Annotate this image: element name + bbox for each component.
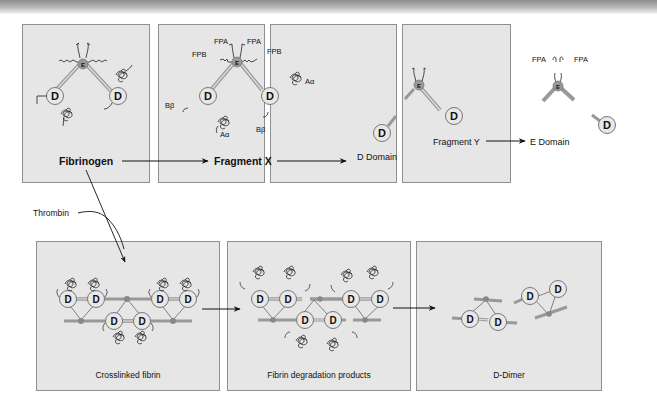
fragment-x-label: Fragment X	[214, 155, 272, 167]
d-domain-letter: D	[450, 110, 458, 122]
d-dimer-left: D D	[452, 296, 517, 330]
crosslinked-fibrin-network: D D D D D D	[57, 278, 199, 344]
e-domain-letter: E	[235, 60, 239, 66]
d-domain-letter: D	[554, 284, 561, 295]
fpb-label-left: FPB	[192, 50, 207, 59]
fpa-label-right: FPA	[574, 55, 588, 64]
d-domain-label: D Domain	[357, 152, 397, 162]
fibrinogen-label: Fibrinogen	[59, 155, 113, 167]
d-dimer-right: D D	[514, 281, 567, 319]
e-domain-letter: E	[556, 84, 560, 90]
d-domain-letter: D	[603, 119, 611, 131]
a-alpha-label-bottom: Aα	[220, 130, 230, 139]
d-domain-letter: D	[378, 127, 386, 139]
d-domain-letter: D	[466, 314, 473, 325]
d-domain-letter: D	[92, 294, 99, 305]
d-domain-letter: D	[347, 294, 354, 305]
fpa-label-left: FPA	[214, 37, 228, 46]
fragment-y-molecule: E D	[405, 68, 463, 125]
a-alpha-label-right: Aα	[305, 77, 315, 86]
fdp-label: Fibrin degradation products	[267, 370, 370, 380]
d-domain-letter: D	[114, 90, 122, 102]
d-domain-letter: D	[138, 316, 145, 327]
d-domain-letter: D	[301, 315, 308, 326]
d-domain-letter: D	[156, 294, 163, 305]
d-domain-letter: D	[284, 294, 291, 305]
d-domain-molecule: D	[374, 116, 397, 142]
fibrinogen-molecule: E D D	[37, 43, 132, 126]
d-domain-letter: D	[51, 90, 59, 102]
d-domain-letter: D	[329, 315, 336, 326]
e-domain-molecule: E D	[543, 57, 616, 134]
arrow-fibrinogen-to-crosslinked	[86, 170, 125, 262]
d-domain-letter: D	[184, 294, 191, 305]
d-domain-letter: D	[64, 294, 71, 305]
e-domain-label: E Domain	[530, 137, 570, 147]
fdp-fragments: D D D D D D	[240, 266, 393, 351]
crosslinked-fibrin-label: Crosslinked fibrin	[95, 370, 160, 380]
fragment-y-label: Fragment Y	[433, 137, 480, 147]
d-domain-letter: D	[256, 294, 263, 305]
fpa-label-right: FPA	[247, 37, 261, 46]
b-beta-label-bottom: Bβ	[256, 125, 266, 134]
b-beta-label-left: Bβ	[165, 101, 175, 110]
d-domain-letter: D	[266, 90, 274, 102]
thrombin-label: Thrombin	[33, 208, 69, 218]
fpb-label-right: FPB	[267, 47, 282, 56]
d-domain-letter: D	[494, 317, 501, 328]
d-domain-letter: D	[376, 294, 383, 305]
fibrinolysis-diagram: E D D Fibrinogen E D D FPA FPA FPB	[0, 0, 657, 405]
d-domain-letter: D	[110, 316, 117, 327]
d-dimer-label: D-Dimer	[493, 370, 525, 380]
d-domain-letter: D	[526, 291, 533, 302]
fpa-label-left: FPA	[532, 55, 546, 64]
d-domain-letter: D	[204, 90, 212, 102]
e-domain-letter: E	[417, 83, 421, 89]
e-domain-letter: E	[81, 62, 85, 68]
